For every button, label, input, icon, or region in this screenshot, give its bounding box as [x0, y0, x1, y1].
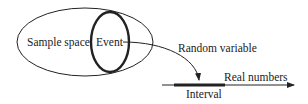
sample-space-label: Sample space: [27, 36, 90, 49]
random-variable-label: Random variable: [178, 42, 257, 54]
interval-label: Interval: [186, 88, 222, 100]
event-label: Event: [96, 36, 124, 48]
real-numbers-label: Real numbers: [224, 71, 288, 83]
random-variable-diagram: Sample space Event Random variable Real …: [0, 0, 308, 104]
